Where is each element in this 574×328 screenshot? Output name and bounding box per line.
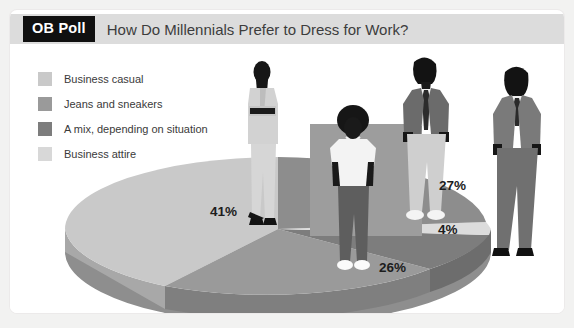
legend-item-business-attire: Business attire	[38, 141, 208, 166]
poll-card: OB Poll How Do Millennials Prefer to Dre…	[10, 10, 564, 313]
legend: Business casual Jeans and sneakers A mix…	[38, 66, 208, 166]
slice-label-jeans-and-sneakers: 26%	[379, 260, 406, 275]
legend-swatch-jeans-and-sneakers	[38, 97, 52, 111]
legend-label-jeans-and-sneakers: Jeans and sneakers	[64, 98, 162, 110]
legend-item-business-casual: Business casual	[38, 66, 208, 91]
legend-label-business-casual: Business casual	[64, 73, 144, 85]
figure-man-dark-suit	[492, 67, 541, 256]
legend-item-jeans-and-sneakers: Jeans and sneakers	[38, 91, 208, 116]
legend-swatch-business-casual	[38, 72, 52, 86]
legend-label-business-attire: Business attire	[64, 148, 136, 160]
legend-label-a-mix: A mix, depending on situation	[64, 123, 208, 135]
ob-poll-badge: OB Poll	[23, 16, 95, 42]
legend-swatch-a-mix	[38, 122, 52, 136]
legend-swatch-business-attire	[38, 147, 52, 161]
slice-label-business-casual: 41%	[210, 204, 237, 219]
header-bar: OB Poll How Do Millennials Prefer to Dre…	[10, 14, 564, 44]
slice-label-a-mix: 27%	[439, 178, 466, 193]
slice-label-business-attire: 4%	[438, 222, 458, 237]
legend-item-a-mix: A mix, depending on situation	[38, 116, 208, 141]
page-title: How Do Millennials Prefer to Dress for W…	[107, 21, 408, 38]
chart-area: Business casual Jeans and sneakers A mix…	[10, 44, 564, 313]
